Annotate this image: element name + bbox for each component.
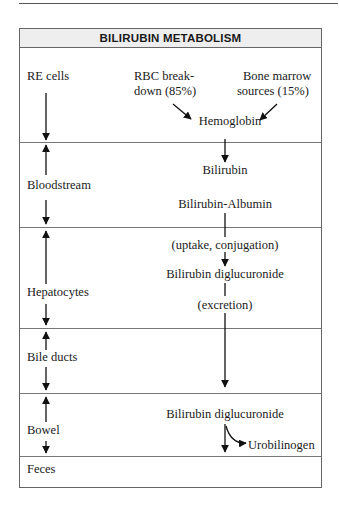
section-divider [20,227,321,228]
section-divider [20,393,321,394]
flow-excretion: (excretion) [198,298,253,313]
section-divider [20,456,321,457]
section-label-bowel: Bowel [27,423,60,438]
section-divider [20,142,321,143]
section-label-re-cells: RE cells [27,69,69,84]
flow-bowel-diglucuronide: Bilirubin diglucuronide [166,407,284,422]
section-label-bile-ducts: Bile ducts [27,350,77,365]
section-divider [20,328,321,329]
top-rule [19,3,338,4]
flow-bilirubin-albumin: Bilirubin-Albumin [178,197,272,212]
source-rbc-line1: RBC break- [134,69,194,84]
flow-hemoglobin: Hemoglobin [199,114,262,129]
flow-bilirubin-diglucuronide: Bilirubin diglucuronide [166,267,284,282]
section-label-bloodstream: Bloodstream [27,178,91,193]
section-label-feces: Feces [27,462,55,477]
source-marrow-line2: sources (15%) [237,84,309,99]
flow-urobilinogen: Urobilinogen [248,438,315,453]
flow-uptake-conjugation: (uptake, conjugation) [172,238,279,253]
source-marrow-line1: Bone marrow [243,69,311,84]
flow-bilirubin: Bilirubin [202,163,247,178]
section-label-hepatocytes: Hepatocytes [27,285,89,300]
diagram-title: BILIRUBIN METABOLISM [20,29,321,48]
source-rbc-line2: down (85%) [134,84,196,99]
